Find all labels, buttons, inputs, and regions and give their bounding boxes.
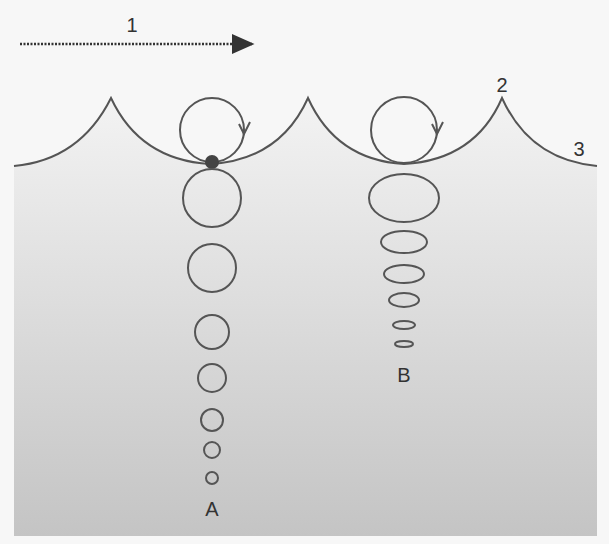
water-body [14, 98, 597, 536]
water-particle-dot [205, 155, 219, 169]
label-column-b: B [397, 364, 410, 386]
orbit-circle [371, 97, 437, 163]
orbit-circle [180, 98, 244, 162]
wave-orbital-diagram: 1 2 3 A B [0, 0, 609, 544]
label-wind-direction: 1 [126, 14, 137, 36]
label-crest: 2 [496, 74, 507, 96]
label-surface: 3 [573, 138, 584, 160]
label-column-a: A [205, 498, 219, 520]
